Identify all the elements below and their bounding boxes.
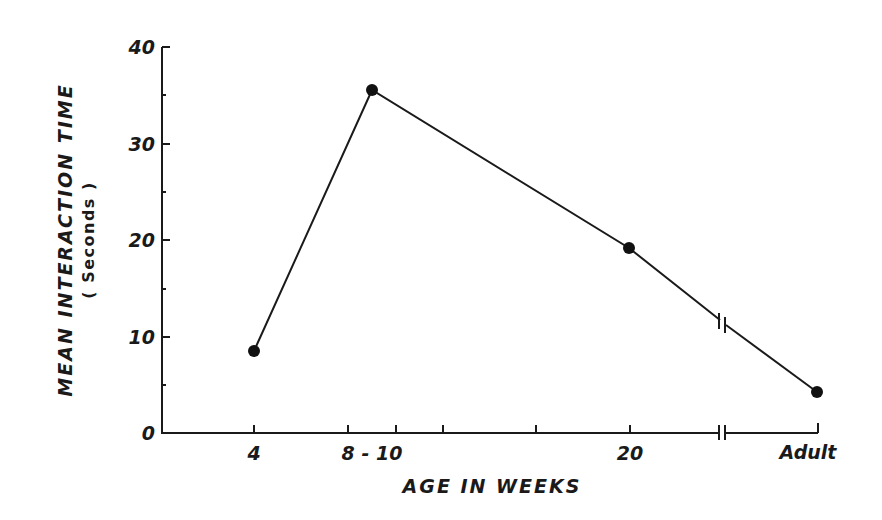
y-axis: 0 10 20 30 40 MEAN INTERACTION TIME ( Se… [54,36,170,444]
x-axis: 4 8 - 10 20 Adult AGE IN WEEKS [161,423,837,497]
y-tick-label-0: 0 [142,422,155,444]
x-axis-title: AGE IN WEEKS [401,475,582,497]
x-tick-label-adult: Adult [778,441,838,463]
y-axis-subtitle: ( Seconds ) [79,181,98,298]
x-tick-label-4: 4 [246,442,260,464]
y-tick-label-30: 30 [129,133,155,155]
data-point-adult [811,386,823,398]
line-chart: 0 10 20 30 40 MEAN INTERACTION TIME ( Se… [0,0,882,520]
y-axis-title: MEAN INTERACTION TIME [54,83,76,396]
y-tick-label-40: 40 [128,36,155,58]
series-line-segment [254,90,720,351]
series-line-segment [726,325,817,392]
x-tick-label-20: 20 [617,442,643,464]
data-point-8-10-weeks [366,84,378,96]
data-series [248,84,823,398]
data-point-4-weeks [248,345,260,357]
y-tick-label-20: 20 [129,229,155,251]
x-tick-label-8-10: 8 - 10 [342,442,403,464]
data-point-20-weeks [623,242,635,254]
y-tick-label-10: 10 [129,326,155,348]
